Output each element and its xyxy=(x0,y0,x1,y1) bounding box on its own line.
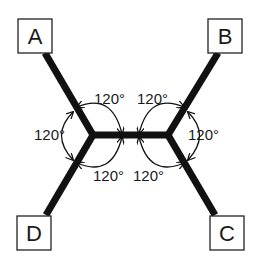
angle-label-right: 120° xyxy=(188,126,219,143)
node-label-a: A xyxy=(28,24,43,49)
angle-label-top-left: 120° xyxy=(94,90,125,107)
node-label-c: C xyxy=(219,221,235,246)
node-label-d: D xyxy=(26,221,42,246)
edge-d-j1 xyxy=(46,135,93,215)
node-a: A xyxy=(18,19,52,53)
angle-label-bottom-right: 120° xyxy=(133,167,164,184)
steiner-tree-diagram: A B C D 120° 120° 120° 120° 120° 120° xyxy=(0,0,262,271)
edge-b-j2 xyxy=(168,53,218,135)
angle-label-left: 120° xyxy=(34,126,65,143)
node-c: C xyxy=(210,216,244,250)
node-b: B xyxy=(208,19,242,53)
node-label-b: B xyxy=(218,24,233,49)
node-d: D xyxy=(17,216,51,250)
angle-label-bottom-left: 120° xyxy=(93,167,124,184)
angle-label-top-right: 120° xyxy=(137,90,168,107)
edge-c-j2 xyxy=(168,135,215,215)
edge-a-j1 xyxy=(45,53,93,135)
